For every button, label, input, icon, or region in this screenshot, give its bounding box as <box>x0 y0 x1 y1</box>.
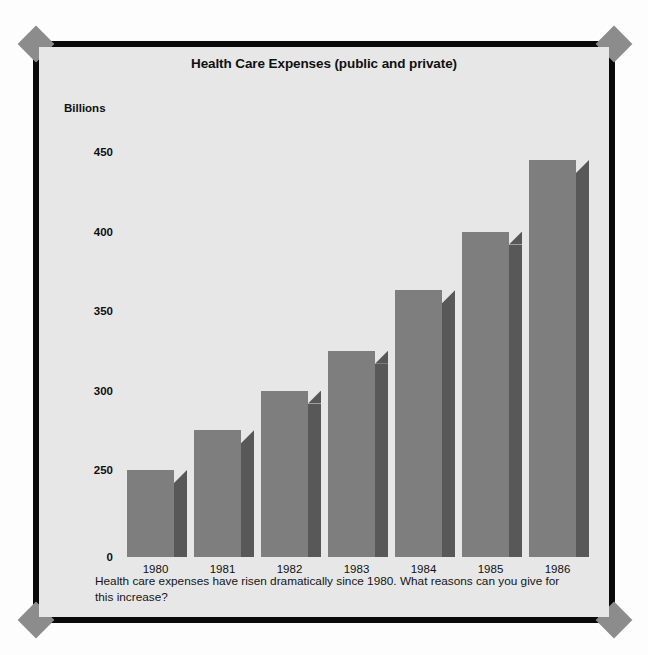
bar-front-face-1986 <box>529 160 576 557</box>
bar-1985 <box>462 232 509 558</box>
chart-panel: Health Care Expenses (public and private… <box>39 47 609 617</box>
y-axis-tick-450: 450 <box>61 146 113 158</box>
bar-top-face-1983 <box>375 351 388 364</box>
bar-side-face-1983 <box>375 364 388 557</box>
bar-front-face-1980 <box>127 470 174 557</box>
bar-side-face-1980 <box>174 483 187 557</box>
bar-side-face-1986 <box>576 173 589 557</box>
bar-front-face-1985 <box>462 232 509 558</box>
frame-right-rule <box>609 52 615 612</box>
figure-page: Health Care Expenses (public and private… <box>0 0 648 655</box>
y-axis-tick-300: 300 <box>61 385 113 397</box>
bar-1980 <box>127 470 174 557</box>
y-axis-tick-350: 350 <box>61 305 113 317</box>
bar-side-face-1985 <box>509 245 522 558</box>
bar-1983 <box>328 351 375 557</box>
bar-top-face-1980 <box>174 470 187 483</box>
bar-top-face-1981 <box>241 430 254 443</box>
bar-1982 <box>261 391 308 558</box>
bar-top-face-1982 <box>308 391 321 404</box>
y-axis-tick-400: 400 <box>61 226 113 238</box>
y-axis-tick-250: 250 <box>61 464 113 476</box>
frame-bottom-rule <box>44 617 604 623</box>
bar-1986 <box>529 160 576 557</box>
bar-front-face-1984 <box>395 290 442 557</box>
bar-front-face-1982 <box>261 391 308 558</box>
y-axis-tick-0: 0 <box>61 551 113 563</box>
bar-1981 <box>194 430 241 557</box>
bar-side-face-1984 <box>442 303 455 557</box>
bar-front-face-1983 <box>328 351 375 557</box>
bar-side-face-1981 <box>241 443 254 557</box>
bar-top-face-1985 <box>509 232 522 245</box>
bar-front-face-1981 <box>194 430 241 557</box>
bar-1984 <box>395 290 442 557</box>
bar-top-face-1984 <box>442 290 455 303</box>
bar-side-face-1982 <box>308 404 321 558</box>
plot-area: 4504003503002500198019811982198319841985… <box>39 47 609 617</box>
figure-caption: Health care expenses have risen dramatic… <box>95 574 573 605</box>
bar-top-face-1986 <box>576 160 589 173</box>
